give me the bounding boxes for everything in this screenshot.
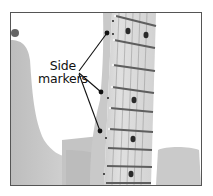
- label-line-2: markers: [38, 72, 88, 85]
- side-markers-label: Side markers: [38, 59, 88, 85]
- guitar-photo: Side markers: [0, 0, 213, 196]
